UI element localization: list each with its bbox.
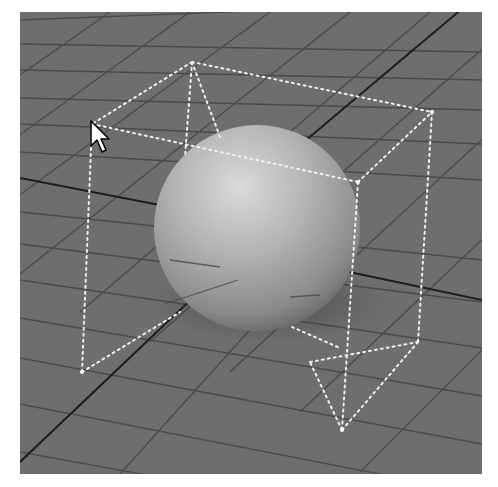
scene-canvas[interactable] <box>20 12 482 474</box>
3d-viewport[interactable] <box>20 12 482 474</box>
sphere-object[interactable] <box>154 125 360 331</box>
page <box>0 0 498 487</box>
